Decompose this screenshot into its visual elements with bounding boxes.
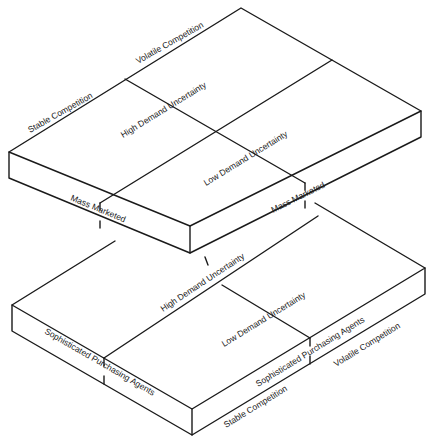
upper-slab [9, 8, 421, 265]
strategy-cube-diagram: Stable Competition Volatile Competition … [0, 0, 431, 442]
